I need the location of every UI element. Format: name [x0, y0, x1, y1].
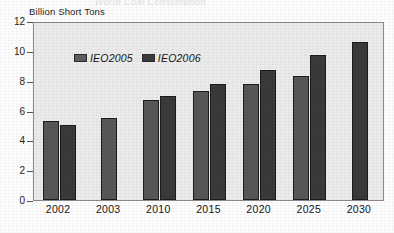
chart-page: World Coal Consumption Billion Short Ton…: [0, 0, 394, 233]
y-axis-caption: Billion Short Tons: [29, 6, 105, 17]
y-axis-tick-label: 0: [3, 195, 25, 206]
bar-series-container: [34, 23, 383, 200]
x-axis: 2002200320102015202020252030: [33, 203, 384, 223]
bar-ieo2006-2010: [160, 96, 176, 200]
bar-ieo2006-2015: [210, 84, 226, 200]
bar-group: [134, 23, 184, 200]
y-axis-tick: [27, 201, 33, 202]
y-axis-tick-label: 10: [3, 46, 25, 57]
y-axis-tick-label: 4: [3, 135, 25, 146]
legend-swatch-ieo2006: [142, 54, 155, 62]
cut-off-figure-title: World Coal Consumption: [95, 0, 285, 6]
bar-ieo2005-2003: [101, 118, 117, 200]
bar-ieo2006-2020: [260, 70, 276, 200]
legend-item-1: IEO2006: [142, 52, 201, 64]
legend-label-ieo2005: IEO2005: [90, 52, 133, 64]
x-axis-tick-label-2003: 2003: [96, 203, 121, 215]
x-axis-tick-label-2020: 2020: [246, 203, 271, 215]
bar-ieo2006-2025: [310, 55, 326, 200]
y-axis-tick-label: 6: [3, 106, 25, 117]
bar-ieo2006-2030: [352, 42, 368, 200]
bar-group: [84, 23, 134, 200]
y-axis-tick-label: 8: [3, 76, 25, 87]
x-axis-tick-label-2015: 2015: [196, 203, 221, 215]
y-axis-tick-label: 12: [3, 16, 25, 27]
chart-legend: IEO2005 IEO2006: [74, 52, 201, 64]
x-axis-tick-label-2002: 2002: [46, 203, 71, 215]
bar-group: [285, 23, 335, 200]
legend-swatch-ieo2005: [74, 54, 87, 62]
legend-label-ieo2006: IEO2006: [158, 52, 201, 64]
bar-ieo2006-2002: [60, 125, 76, 200]
bar-ieo2005-2015: [193, 91, 209, 200]
bar-ieo2005-2025: [293, 76, 309, 200]
bar-group: [184, 23, 234, 200]
x-axis-tick-label-2010: 2010: [146, 203, 171, 215]
plot-area: IEO2005 IEO2006: [33, 22, 384, 201]
bar-ieo2005-2002: [43, 121, 59, 200]
x-axis-tick-label-2025: 2025: [297, 203, 322, 215]
bar-ieo2005-2020: [243, 84, 259, 200]
y-axis-tick-label: 2: [3, 165, 25, 176]
bar-group: [235, 23, 285, 200]
bar-group: [34, 23, 84, 200]
legend-item-0: IEO2005: [74, 52, 133, 64]
bar-ieo2005-2010: [143, 100, 159, 200]
bar-group: [335, 23, 385, 200]
x-axis-tick-label-2030: 2030: [347, 203, 372, 215]
